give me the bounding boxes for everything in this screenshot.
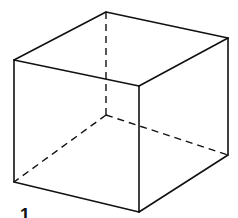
edge-bottom-right [139,155,228,212]
edge-top-right [139,38,228,86]
figure-label: 1 [20,206,30,218]
hidden-edge-back-left [14,115,106,182]
edge-top-back-right [106,12,228,38]
edge-top-back-left [14,12,106,60]
hidden-edge-back-right [106,115,228,155]
cube-diagram [0,0,238,218]
edge-top-front [14,60,139,86]
edge-bottom-front [14,182,139,212]
